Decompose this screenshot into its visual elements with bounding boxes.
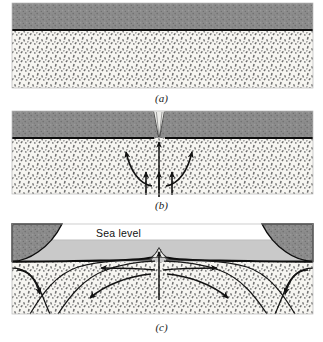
caption-a: (a) (0, 92, 323, 104)
caption-c: (c) (0, 321, 323, 333)
asthenosphere-b (12, 138, 313, 194)
figure-container: (a) (0, 0, 323, 342)
sea-level-label: Sea level (96, 227, 141, 239)
ocean-water-c (12, 240, 313, 262)
caption-b: (b) (0, 199, 323, 211)
asthenosphere-a (12, 30, 313, 88)
continental-crust-a (12, 3, 313, 30)
asthenosphere-c (12, 262, 313, 314)
